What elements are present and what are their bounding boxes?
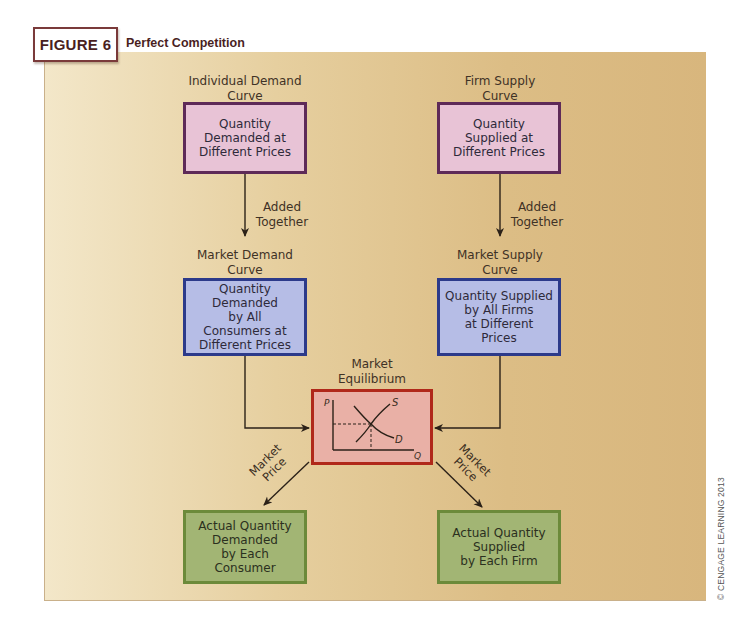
market-demand-box: Quantity Demanded by All Consumers at Di…: [183, 278, 307, 356]
supply-curve-label: S: [392, 397, 399, 408]
connector-arrows: [0, 0, 743, 623]
actual-quantity-supplied-text: Actual Quantity Supplied by Each Firm: [452, 526, 545, 568]
actual-quantity-demanded-box: Actual Quantity Demanded by Each Consume…: [183, 510, 307, 584]
supply-added-together-label: Added Together: [507, 200, 567, 230]
figure-number-label: FIGURE 6: [33, 27, 118, 62]
actual-quantity-demanded-text: Actual Quantity Demanded by Each Consume…: [190, 519, 300, 575]
price-axis-label: P: [324, 398, 330, 408]
individual-demand-curve-label: Individual Demand Curve: [175, 74, 315, 104]
individual-demand-box-text: Quantity Demanded at Different Prices: [199, 117, 291, 159]
individual-demand-box: Quantity Demanded at Different Prices: [183, 102, 307, 174]
market-supply-curve-label: Market Supply Curve: [430, 248, 570, 278]
market-equilibrium-box: P Q S D: [311, 389, 433, 465]
firm-supply-curve-label: Firm Supply Curve: [430, 74, 570, 104]
market-equilibrium-label: Market Equilibrium: [322, 357, 422, 387]
market-supply-box: Quantity Supplied by All Firms at Differ…: [437, 278, 561, 356]
quantity-axis-label: Q: [414, 451, 421, 461]
demand-curve-label: D: [395, 434, 403, 445]
figure-title: Perfect Competition: [126, 36, 245, 50]
demand-added-together-label: Added Together: [252, 200, 312, 230]
market-demand-box-text: Quantity Demanded by All Consumers at Di…: [190, 282, 300, 352]
supply-demand-graph: P Q S D: [314, 392, 430, 462]
firm-supply-box: Quantity Supplied at Different Prices: [437, 102, 561, 174]
actual-quantity-supplied-box: Actual Quantity Supplied by Each Firm: [437, 510, 561, 584]
firm-supply-box-text: Quantity Supplied at Different Prices: [453, 117, 545, 159]
market-supply-box-text: Quantity Supplied by All Firms at Differ…: [445, 289, 553, 345]
copyright-credit: © CENGAGE LEARNING 2013: [716, 477, 726, 600]
market-demand-curve-label: Market Demand Curve: [175, 248, 315, 278]
